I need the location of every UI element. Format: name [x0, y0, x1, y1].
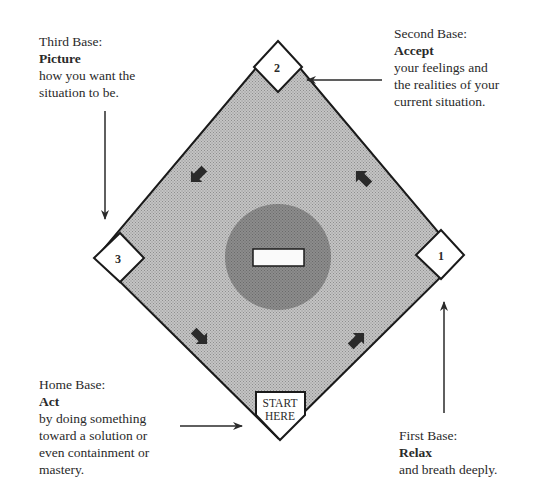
home-plate-text-line2: HERE	[265, 410, 295, 422]
baseball-diamond-diagram: 2 3 1 START HERE	[0, 0, 552, 504]
pitchers-rubber	[253, 249, 304, 266]
second-base-number: 2	[274, 61, 280, 75]
home-plate-text-line1: START	[263, 397, 298, 409]
third-base-number: 3	[115, 252, 121, 266]
first-base-number: 1	[438, 249, 444, 263]
